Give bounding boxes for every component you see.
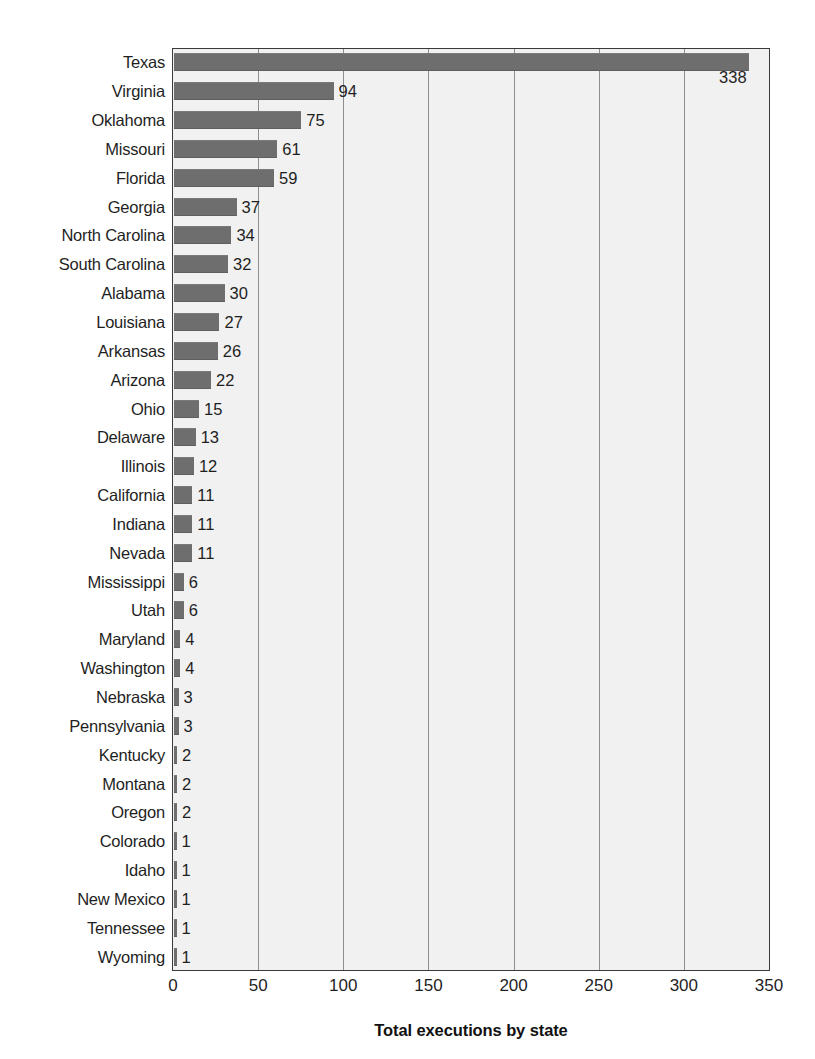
category-label: Virginia [0, 82, 165, 100]
bar-row[interactable]: Arizona22 [0, 365, 815, 394]
bar-value-label: 32 [233, 255, 251, 273]
bar-row[interactable]: Utah6 [0, 596, 815, 625]
bar-row[interactable]: Pennsylvania3 [0, 711, 815, 740]
bar-row[interactable]: Oregon2 [0, 798, 815, 827]
bar[interactable] [174, 486, 193, 504]
category-label: Nevada [0, 544, 165, 562]
bar-row[interactable]: New Mexico1 [0, 884, 815, 913]
bar-row[interactable]: Florida59 [0, 163, 815, 192]
bar[interactable] [174, 746, 177, 764]
bar[interactable] [174, 342, 218, 360]
bar-row[interactable]: Alabama30 [0, 279, 815, 308]
bar-row[interactable]: Nevada11 [0, 538, 815, 567]
bar-value-label: 1 [182, 890, 191, 908]
bar[interactable] [174, 400, 200, 418]
bar-row[interactable]: Maryland4 [0, 625, 815, 654]
bar-value-label: 3 [184, 717, 193, 735]
bar-row[interactable]: Wyoming1 [0, 942, 815, 971]
bar-row[interactable]: Kentucky2 [0, 740, 815, 769]
bar-row[interactable]: Idaho1 [0, 856, 815, 885]
bar[interactable] [174, 948, 177, 966]
bar-row[interactable]: South Carolina32 [0, 250, 815, 279]
bar-row[interactable]: Illinois12 [0, 452, 815, 481]
x-tick-label: 150 [414, 976, 442, 996]
x-axis-tick-labels: 050100150200250300350 [0, 976, 815, 1002]
category-label: Montana [0, 775, 165, 793]
bar[interactable] [174, 832, 177, 850]
bar-row[interactable]: Delaware13 [0, 423, 815, 452]
bar[interactable] [174, 717, 179, 735]
bar[interactable] [174, 573, 184, 591]
category-label: Texas [0, 53, 165, 71]
bar[interactable] [174, 428, 196, 446]
bar[interactable] [174, 457, 194, 475]
bar[interactable] [174, 313, 220, 331]
bar[interactable] [174, 255, 228, 273]
category-label: Pennsylvania [0, 717, 165, 735]
x-tick-label: 250 [585, 976, 613, 996]
bar-row[interactable]: Virginia94 [0, 77, 815, 106]
bar-row[interactable]: Nebraska3 [0, 683, 815, 712]
category-label: Florida [0, 169, 165, 187]
bar[interactable] [174, 630, 181, 648]
bar-row[interactable]: Georgia37 [0, 192, 815, 221]
bar[interactable] [174, 82, 334, 100]
bar-row[interactable]: Mississippi6 [0, 567, 815, 596]
bar-row[interactable]: Texas338 [0, 48, 815, 77]
category-label: Missouri [0, 140, 165, 158]
bar-row[interactable]: Ohio15 [0, 394, 815, 423]
category-label: Idaho [0, 861, 165, 879]
bar[interactable] [174, 890, 177, 908]
bar[interactable] [174, 226, 232, 244]
bar[interactable] [174, 688, 179, 706]
bar[interactable] [174, 544, 193, 562]
bar-value-label: 26 [223, 342, 241, 360]
bar[interactable] [174, 371, 211, 389]
category-label: Tennessee [0, 919, 165, 937]
category-label: Louisiana [0, 313, 165, 331]
bar-value-label: 59 [279, 169, 297, 187]
bar-row[interactable]: Colorado1 [0, 827, 815, 856]
x-tick-label: 350 [755, 976, 783, 996]
bar-value-label: 1 [182, 948, 191, 966]
bar[interactable] [174, 515, 193, 533]
category-label: Illinois [0, 457, 165, 475]
bar-value-label: 1 [182, 832, 191, 850]
bar-row[interactable]: Tennessee1 [0, 913, 815, 942]
bar[interactable] [174, 803, 177, 821]
bar-row[interactable]: California11 [0, 481, 815, 510]
bar[interactable] [174, 775, 177, 793]
bar-value-label: 3 [184, 688, 193, 706]
category-label: Alabama [0, 284, 165, 302]
bar-rows: Texas338Virginia94Oklahoma75Missouri61Fl… [0, 0, 815, 1059]
bar[interactable] [174, 284, 225, 302]
bar-row[interactable]: Missouri61 [0, 135, 815, 164]
category-label: Arkansas [0, 342, 165, 360]
bar[interactable] [174, 198, 237, 216]
category-label: North Carolina [0, 226, 165, 244]
bar[interactable] [174, 140, 278, 158]
bar-row[interactable]: Louisiana27 [0, 308, 815, 337]
bar-row[interactable]: Indiana11 [0, 510, 815, 539]
bar-row[interactable]: North Carolina34 [0, 221, 815, 250]
bar[interactable] [174, 919, 177, 937]
bar-value-label: 11 [197, 544, 214, 562]
bar-row[interactable]: Montana2 [0, 769, 815, 798]
bar-row[interactable]: Oklahoma75 [0, 106, 815, 135]
category-label: Delaware [0, 428, 165, 446]
bar-value-label: 15 [204, 400, 222, 418]
bar[interactable] [174, 659, 181, 677]
category-label: Colorado [0, 832, 165, 850]
bar-row[interactable]: Washington4 [0, 654, 815, 683]
x-tick-label: 300 [670, 976, 698, 996]
bar[interactable] [174, 111, 302, 129]
bar[interactable] [174, 861, 177, 879]
category-label: Indiana [0, 515, 165, 533]
category-label: Washington [0, 659, 165, 677]
category-label: Utah [0, 601, 165, 619]
bar-chart: Texas338Virginia94Oklahoma75Missouri61Fl… [0, 0, 815, 1059]
bar[interactable] [174, 53, 750, 71]
bar[interactable] [174, 601, 184, 619]
bar-row[interactable]: Arkansas26 [0, 336, 815, 365]
bar[interactable] [174, 169, 274, 187]
